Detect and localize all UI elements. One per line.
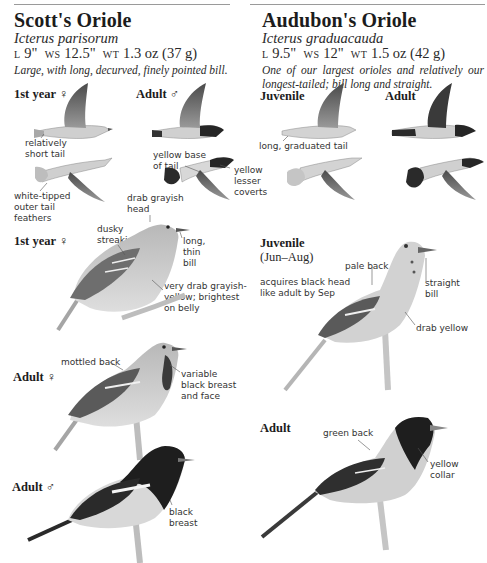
bird-scotts-adult-male-perched: [28, 446, 195, 563]
annotation-mottled-back: mottled back: [61, 357, 120, 368]
species-title-audubons: Audubon's Oriole: [262, 9, 416, 32]
annotation-pale-back: pale back: [345, 261, 389, 272]
annotation-drab-yellow: drab yellow: [416, 323, 468, 334]
age-label-scotts-flight-adult-male: Adult ♂: [136, 87, 179, 102]
annotation-straight-bill: straightbill: [425, 278, 460, 300]
age-label-scotts-flight-1st-year-female: 1st year ♀: [14, 87, 68, 102]
age-label-scotts-adult-female: Adult ♀: [13, 370, 56, 385]
age-label-scotts-adult-male: Adult ♂: [12, 480, 55, 495]
age-label-scotts-1st-year-female: 1st year ♀: [14, 234, 68, 249]
top-rule-right: [250, 4, 485, 5]
measurements-scotts: L 9" WS 12.5" WT 1.3 oz (37 g): [14, 45, 197, 62]
weight-label: WT: [351, 49, 368, 60]
annotation-long-thin-bill: long,thinbill: [183, 236, 205, 269]
wingspan-label: WS: [45, 49, 61, 60]
weight-label: WT: [103, 49, 120, 60]
wingspan-value: 12": [323, 45, 343, 61]
annotation-yellow-lesser-coverts: yellowlessercoverts: [234, 165, 267, 198]
annotation-yellow-base-tail: yellow baseof tail: [153, 150, 206, 172]
wingspan-label: WS: [304, 49, 320, 60]
top-rule-left: [14, 4, 230, 5]
bird-audubons-juvenile-flight-down: [287, 158, 362, 200]
annotation-yellow-collar: yellowcollar: [430, 459, 459, 481]
wingspan-value: 12.5": [64, 45, 95, 61]
description-scotts: Large, with long, decurved, finely point…: [14, 63, 244, 77]
description-audubons: One of our largest orioles and relativel…: [262, 63, 484, 91]
annotation-black-breast: blackbreast: [169, 507, 198, 529]
annotation-graduated-tail: long, graduated tail: [259, 141, 348, 152]
season-label-audubons-juvenile: (Jun–Aug): [260, 250, 313, 265]
annotation-short-tail: relativelyshort tail: [25, 138, 67, 160]
weight-value: 1.5 oz (42 g): [371, 45, 445, 61]
age-label-audubons-flight-juvenile: Juvenile: [260, 89, 304, 104]
age-label-audubons-flight-adult: Adult: [385, 89, 416, 104]
annotation-white-tipped: white-tippedouter tailfeathers: [14, 191, 71, 224]
measurements-audubons: L 9.5" WS 12" WT 1.5 oz (42 g): [262, 45, 445, 62]
length-value: 9.5": [272, 45, 296, 61]
length-value: 9": [24, 45, 37, 61]
length-label: L: [262, 49, 269, 60]
annotation-drab-grayish-head: drab grayishhead: [127, 193, 184, 215]
annotation-acquires-black-head: acquires black headlike adult by Sep: [260, 277, 350, 299]
annotation-drab-grayish-yellow: very drab grayish-yellow; brighteston be…: [164, 281, 247, 314]
length-label: L: [14, 49, 21, 60]
weight-value: 1.3 oz (37 g): [123, 45, 197, 61]
annotation-variable-black-breast: variableblack breastand face: [181, 369, 236, 402]
age-label-audubons-juvenile: Juvenile: [260, 236, 304, 251]
annotation-dusky-streaking: duskystreaking: [97, 224, 139, 246]
species-title-scotts: Scott's Oriole: [14, 9, 131, 32]
age-label-audubons-adult: Adult: [260, 421, 291, 436]
bird-audubons-adult-flight-down: [406, 158, 484, 200]
annotation-green-back: green back: [323, 428, 373, 439]
